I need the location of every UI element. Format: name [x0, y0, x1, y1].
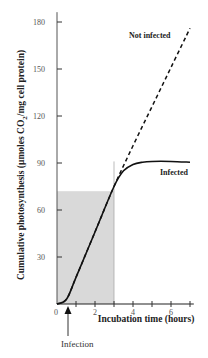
y-tick-label: 60 — [37, 206, 45, 215]
y-tick-label: 180 — [33, 18, 45, 27]
y-tick-label: 30 — [37, 253, 45, 262]
y-tick-label: 90 — [37, 159, 45, 168]
x-tick-label: 2 — [93, 308, 97, 317]
x-axis-title: Incubation time (hours) — [98, 314, 195, 325]
series-label-not-infected: Not infected — [129, 31, 171, 40]
y-tick-label: 120 — [33, 112, 45, 121]
x-tick-label: 0 — [54, 308, 58, 317]
y-axis-title: Cumulative photosynthesis (µmoles CO2/mg… — [16, 50, 29, 280]
y-tick-label: 150 — [33, 65, 45, 74]
infection-arrow-icon — [65, 306, 72, 336]
series-label-infected: Infected — [160, 168, 189, 177]
chart: 306090120150180 0246 Cumulative photosyn… — [0, 0, 208, 358]
infection-label: Infection — [61, 339, 94, 349]
